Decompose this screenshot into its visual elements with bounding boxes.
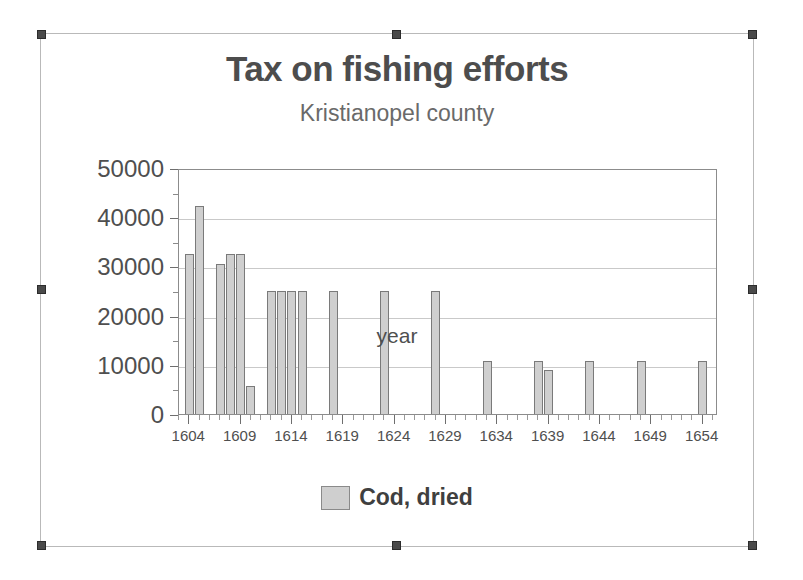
x-axis-minor-tick: [455, 415, 456, 420]
chart-canvas: Tax on fishing efforts Kristianopel coun…: [0, 0, 803, 580]
x-axis-tick: [650, 415, 651, 424]
x-axis-tick-label: 1629: [428, 427, 461, 444]
x-axis-tick: [496, 415, 497, 424]
bar: [698, 361, 707, 414]
x-axis-minor-tick: [435, 415, 436, 420]
y-axis-tick-label: 30000: [36, 255, 164, 279]
x-axis-tick: [342, 415, 343, 424]
bar: [431, 291, 440, 414]
plot-wrapper: 01000020000300004000050000 1604160916141…: [178, 169, 717, 415]
x-axis-tick-label: 1619: [326, 427, 359, 444]
x-axis-tick-label: 1624: [377, 427, 410, 444]
x-axis-minor-tick: [209, 415, 210, 420]
x-axis-minor-tick: [507, 415, 508, 420]
x-axis-minor-tick: [476, 415, 477, 420]
chart-subtitle: Kristianopel county: [41, 100, 753, 127]
legend-swatch-cod-dried: [321, 486, 350, 510]
x-axis-minor-tick: [619, 415, 620, 420]
y-axis-tick-label: 0: [36, 403, 164, 427]
x-axis-minor-tick: [568, 415, 569, 420]
bar: [544, 370, 553, 414]
x-axis-minor-tick: [640, 415, 641, 420]
bar: [195, 206, 204, 414]
x-axis-tick: [445, 415, 446, 424]
x-axis-minor-tick: [712, 415, 713, 420]
bar: [380, 291, 389, 414]
x-axis-minor-tick: [363, 415, 364, 420]
x-axis-minor-tick: [199, 415, 200, 420]
x-axis-tick-label: 1649: [634, 427, 667, 444]
x-axis-tick: [240, 415, 241, 424]
resize-handle-middle-right[interactable]: [748, 285, 757, 294]
bar: [267, 291, 276, 414]
x-axis-tick: [394, 415, 395, 424]
y-axis-tick-label: 50000: [36, 157, 164, 181]
resize-handle-bottom-left[interactable]: [37, 541, 46, 550]
resize-handle-bottom-center[interactable]: [392, 541, 401, 550]
x-axis-minor-tick: [691, 415, 692, 420]
bar: [246, 386, 255, 414]
x-axis-minor-tick: [589, 415, 590, 420]
bar: [287, 291, 296, 414]
x-axis-title: year: [41, 324, 753, 348]
resize-handle-bottom-right[interactable]: [748, 541, 757, 550]
plot-area: [178, 169, 717, 415]
legend-label-cod-dried: Cod, dried: [359, 484, 473, 511]
x-axis-minor-tick: [465, 415, 466, 420]
chart-legend: Cod, dried: [41, 484, 753, 511]
bar: [637, 361, 646, 414]
resize-handle-top-left[interactable]: [37, 30, 46, 39]
x-axis-minor-tick: [486, 415, 487, 420]
x-axis-minor-tick: [661, 415, 662, 420]
resize-handle-top-right[interactable]: [748, 30, 757, 39]
x-axis-minor-tick: [229, 415, 230, 420]
x-axis-minor-tick: [332, 415, 333, 420]
x-axis-minor-tick: [527, 415, 528, 420]
x-axis-minor-tick: [578, 415, 579, 420]
bar: [534, 361, 543, 414]
x-axis-minor-tick: [250, 415, 251, 420]
x-axis-minor-tick: [353, 415, 354, 420]
x-axis-minor-tick: [301, 415, 302, 420]
x-axis-minor-tick: [681, 415, 682, 420]
x-axis-minor-tick: [322, 415, 323, 420]
x-axis-tick: [188, 415, 189, 424]
x-axis-tick: [548, 415, 549, 424]
x-axis-tick-label: 1609: [223, 427, 256, 444]
x-axis-tick-label: 1604: [172, 427, 205, 444]
x-axis-tick-label: 1639: [531, 427, 564, 444]
x-axis-tick: [599, 415, 600, 424]
x-axis-minor-tick: [383, 415, 384, 420]
x-axis-tick-label: 1644: [582, 427, 615, 444]
x-axis-minor-tick: [424, 415, 425, 420]
x-axis-tick: [291, 415, 292, 424]
bar: [329, 291, 338, 414]
chart-title: Tax on fishing efforts: [41, 49, 753, 89]
x-axis-minor-tick: [630, 415, 631, 420]
x-axis-tick-label: 1614: [274, 427, 307, 444]
x-axis-minor-tick: [537, 415, 538, 420]
x-axis-minor-tick: [311, 415, 312, 420]
x-axis-minor-tick: [373, 415, 374, 420]
x-axis-ticks: 1604160916141619162416291634163916441649…: [178, 415, 717, 429]
bar: [298, 291, 307, 414]
x-axis-minor-tick: [671, 415, 672, 420]
x-axis-tick-label: 1654: [685, 427, 718, 444]
x-axis-minor-tick: [270, 415, 271, 420]
bar: [483, 361, 492, 414]
x-axis-tick-label: 1634: [480, 427, 513, 444]
x-axis-minor-tick: [260, 415, 261, 420]
selected-object-frame[interactable]: Tax on fishing efforts Kristianopel coun…: [40, 33, 754, 547]
x-axis-minor-tick: [281, 415, 282, 420]
resize-handle-top-center[interactable]: [392, 30, 401, 39]
bar-series-cod-dried: [179, 170, 716, 414]
resize-handle-middle-left[interactable]: [37, 285, 46, 294]
x-axis-minor-tick: [609, 415, 610, 420]
y-axis-tick-label: 40000: [36, 206, 164, 230]
x-axis-minor-tick: [404, 415, 405, 420]
x-axis-minor-tick: [178, 415, 179, 420]
y-axis-tick-label: 10000: [36, 354, 164, 378]
x-axis-minor-tick: [414, 415, 415, 420]
x-axis-minor-tick: [517, 415, 518, 420]
x-axis-tick: [702, 415, 703, 424]
